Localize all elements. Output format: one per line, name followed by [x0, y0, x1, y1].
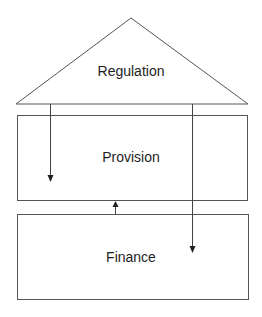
regulation-triangle — [16, 18, 248, 104]
regulation-label: Regulation — [98, 63, 165, 79]
regulation-node: Regulation — [16, 18, 248, 104]
provision-label: Provision — [102, 149, 160, 165]
finance-node: Finance — [18, 215, 249, 300]
diagram-canvas: Regulation Provision Finance — [0, 0, 262, 317]
arrow-up-icon — [113, 201, 119, 207]
arrow-regulation-to-finance — [190, 104, 196, 253]
arrow-down-icon — [190, 246, 196, 253]
arrow-finance-to-provision — [113, 201, 119, 214]
arrow-down-icon — [48, 175, 54, 182]
finance-label: Finance — [106, 249, 156, 265]
provision-node: Provision — [18, 116, 248, 201]
